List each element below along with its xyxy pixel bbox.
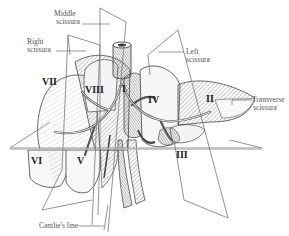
segment-iii-label: III [176, 149, 188, 160]
segment-vii-label: VII [42, 76, 57, 87]
diagram-artwork [0, 0, 289, 236]
middle-scissura-label: Middle scissura [54, 10, 80, 26]
right-scissura-label-line2: scissura [27, 46, 51, 54]
segment-i-label: I [122, 83, 126, 94]
segment-ii-label: II [206, 93, 214, 104]
left-scissura-label: Left scissura [186, 48, 210, 64]
segment-viii-label: VIII [85, 84, 104, 95]
segment-v-label: V [77, 155, 84, 166]
transverse-scissura-label-line2: scissura [252, 104, 285, 112]
middle-scissura-label-line2: scissura [54, 18, 80, 26]
transverse-scissura-label: Transverse scissura [252, 96, 285, 112]
right-scissura-label: Right scissura [27, 38, 51, 54]
liver-segments-diagram: Middle scissura Right scissura Left scis… [0, 0, 289, 236]
left-scissura-label-line2: scissura [186, 56, 210, 64]
segment-iv-label: IV [148, 94, 159, 105]
cantlies-line-label: Cantlie's line [39, 222, 78, 230]
segment-vi-label: VI [31, 155, 42, 166]
